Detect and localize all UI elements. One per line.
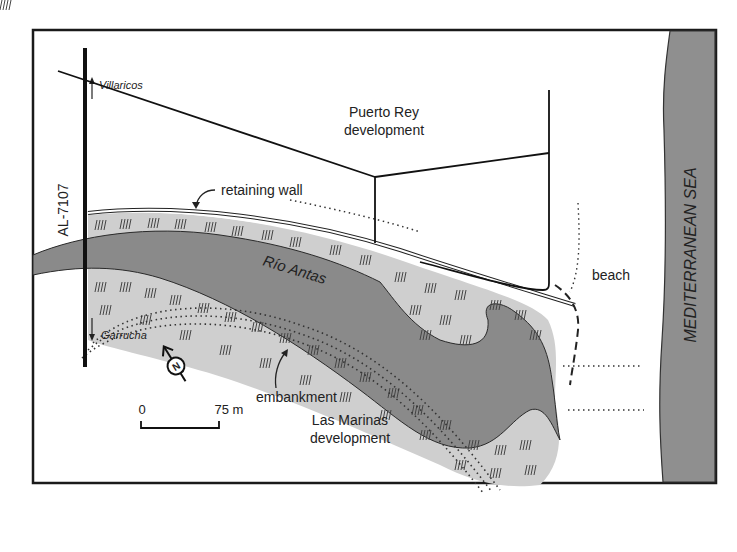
beach-label: beach <box>592 267 630 283</box>
scale-end-label: 75 m <box>215 402 244 417</box>
scale-start-label: 0 <box>138 402 145 417</box>
embankment-label: embankment <box>256 389 337 405</box>
map: MEDITERRANEAN SEA Río Antas <box>0 0 737 552</box>
retaining-wall-label: retaining wall <box>221 182 303 198</box>
puerto-rey-label-2: development <box>344 122 424 138</box>
las-marinas-label-1: Las Marinas <box>312 412 388 428</box>
puerto-rey-label-1: Puerto Rey <box>349 104 419 120</box>
garrucha-label: Garrucha <box>101 329 147 341</box>
villaricos-label: Villaricos <box>99 79 143 91</box>
road-label: AL-7107 <box>55 183 71 236</box>
sea-label: MEDITERRANEAN SEA <box>682 167 699 342</box>
las-marinas-label-2: development <box>310 430 390 446</box>
